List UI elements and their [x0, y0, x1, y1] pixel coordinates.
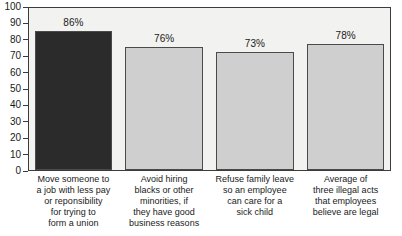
bar-group: 86%: [35, 8, 113, 170]
category-label-line: they have good: [112, 207, 215, 218]
bar-group: 76%: [125, 8, 203, 170]
category-label-line: can care for a: [203, 196, 306, 207]
category-label-line: sick child: [203, 207, 306, 218]
category-label: Avoid hiringblacks or otherminorities, i…: [112, 174, 215, 229]
category-label-line: a job with less pay: [22, 185, 125, 196]
y-axis-tick-label: 70: [10, 50, 21, 62]
y-axis: 1009080706050403020100: [0, 7, 28, 171]
bars-layer: 86%76%73%78%: [28, 7, 391, 171]
bar-value-label: 78%: [307, 30, 385, 42]
y-axis-tick-label: 80: [10, 34, 21, 46]
category-label-line: Avoid hiring: [112, 174, 215, 185]
category-label: Refuse family leaveso an employeecan car…: [203, 174, 306, 218]
y-axis-tick-label: 60: [10, 67, 21, 79]
category-label-line: that employees: [294, 196, 397, 207]
bar: [125, 47, 203, 170]
category-label-line: or reponsibility: [22, 196, 125, 207]
y-axis-tick-label: 30: [10, 116, 21, 128]
bar-value-label: 86%: [35, 17, 113, 29]
category-label-line: so an employee: [203, 185, 306, 196]
y-axis-tick-label: 20: [10, 132, 21, 144]
y-axis-tick-label: 100: [5, 1, 21, 13]
bar-group: 78%: [307, 8, 385, 170]
y-axis-tick-label: 10: [10, 149, 21, 161]
category-label-line: three illegal acts: [294, 185, 397, 196]
bar: [307, 44, 385, 170]
bar: [35, 31, 113, 170]
category-label-line: believe are legal: [294, 207, 397, 218]
bar: [216, 52, 294, 170]
category-label: Move someone toa job with less payor rep…: [22, 174, 125, 229]
category-label-line: business reasons: [112, 218, 215, 229]
category-labels: Move someone toa job with less payor rep…: [28, 174, 391, 236]
y-axis-tick-label: 40: [10, 99, 21, 111]
bar-group: 73%: [216, 8, 294, 170]
y-axis-tick-label: 90: [10, 17, 21, 29]
y-axis-tick-label: 50: [10, 83, 21, 95]
category-label-line: Move someone to: [22, 174, 125, 185]
category-label-line: Refuse family leave: [203, 174, 306, 185]
bar-value-label: 76%: [125, 33, 203, 45]
category-label: Average ofthree illegal actsthat employe…: [294, 174, 397, 218]
category-label-line: for trying to: [22, 207, 125, 218]
category-label-line: Average of: [294, 174, 397, 185]
y-axis-tick-label: 0: [16, 165, 21, 177]
category-label-line: blacks or other: [112, 185, 215, 196]
category-label-line: minorities, if: [112, 196, 215, 207]
category-label-line: form a union: [22, 218, 125, 229]
bar-value-label: 73%: [216, 38, 294, 50]
bar-chart: 1009080706050403020100 86%76%73%78% Move…: [0, 0, 402, 236]
